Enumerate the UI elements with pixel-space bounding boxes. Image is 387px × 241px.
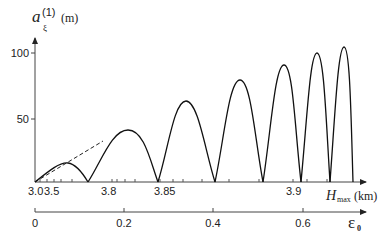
x2-tick-0-2: 0.2 [116, 217, 131, 229]
x-axis-label-hmax: H [325, 188, 337, 203]
x-tick-3-9: 3.9 [286, 185, 301, 197]
x2-tick-0-6: 0.6 [295, 217, 310, 229]
y-tick-100: 100 [11, 47, 29, 59]
x-tick-3-5: 3.5 [44, 185, 59, 197]
x-tick-3-8: 3.8 [101, 185, 116, 197]
svg-text:(m): (m) [61, 11, 78, 25]
x-tick-3-0: 3.0 [28, 185, 43, 197]
x2-axis-label: ε [348, 213, 355, 232]
y-axis-label: a [32, 7, 41, 26]
dashed-asymptote [35, 141, 103, 182]
x-tick-3-85: 3.85 [154, 185, 175, 197]
x2-tick-0-4: 0.4 [205, 217, 220, 229]
svg-text:max: max [337, 195, 351, 204]
svg-text:(1): (1) [42, 6, 55, 18]
svg-text:ξ: ξ [43, 23, 47, 33]
amplitude-curve [35, 47, 353, 182]
y-tick-50: 50 [17, 113, 29, 125]
svg-text:(km): (km) [354, 189, 377, 203]
chart: 100 50 a ξ (1) (m) 3.0 3.5 3.8 3.85 3.9 … [0, 0, 387, 241]
svg-text:0: 0 [357, 224, 361, 233]
x2-tick-0: 0 [32, 217, 38, 229]
